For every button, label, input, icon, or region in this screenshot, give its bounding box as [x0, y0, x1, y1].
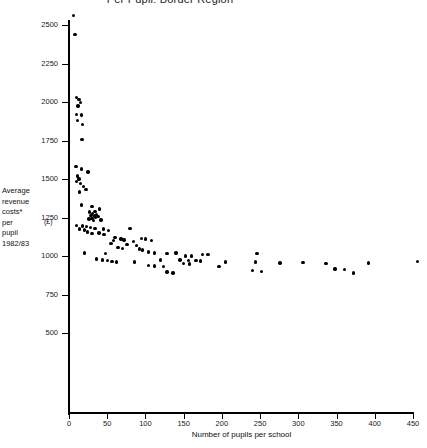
data-point	[93, 227, 96, 230]
y-axis-tick	[62, 333, 69, 334]
data-point	[98, 207, 101, 210]
data-point	[102, 233, 105, 236]
data-point	[95, 257, 98, 260]
y-axis-title-line-4: per	[2, 218, 44, 229]
y-axis-title-line-3: costs*	[2, 207, 44, 218]
y-axis-tick	[62, 102, 69, 103]
y-axis-tick-label: 1750	[8, 136, 58, 145]
data-point	[97, 231, 100, 234]
x-axis-tick-label: 450	[398, 419, 427, 428]
x-axis-tick-label: 200	[207, 419, 237, 428]
y-axis-tick	[62, 25, 69, 26]
data-point	[301, 261, 304, 264]
x-axis-tick-label: 250	[245, 419, 275, 428]
y-axis-tick-label: 1500	[8, 174, 58, 183]
data-point	[144, 237, 147, 240]
data-point	[80, 167, 83, 170]
y-axis-title-line-5: pupil	[2, 228, 44, 239]
data-point	[367, 261, 370, 264]
data-point	[333, 267, 336, 270]
data-point	[141, 248, 144, 251]
data-point	[135, 244, 138, 247]
data-point	[73, 33, 76, 36]
data-point	[194, 259, 197, 262]
data-point	[74, 165, 77, 168]
y-axis-tick	[62, 218, 69, 219]
y-axis-title-line-6: 1982/83	[2, 239, 44, 250]
y-axis-tick-label: 2000	[8, 97, 58, 106]
y-axis-tick	[62, 64, 69, 65]
data-point	[278, 261, 281, 264]
scatter-plot-figure: Per Pupil: Border Region 500750100012501…	[0, 0, 427, 448]
x-axis-title: Number of pupils per school	[69, 430, 414, 439]
data-point	[165, 252, 168, 255]
x-axis-tick-label: 300	[283, 419, 313, 428]
y-axis-tick	[62, 295, 69, 296]
data-point	[324, 262, 327, 265]
y-axis-tick-label: 750	[8, 290, 58, 299]
y-axis-tick	[62, 141, 69, 142]
x-axis-tick-label: 150	[169, 419, 199, 428]
x-axis-tick-label: 50	[92, 419, 122, 428]
data-point	[80, 203, 83, 206]
data-point	[83, 251, 86, 254]
x-axis-tick-label: 0	[54, 419, 84, 428]
data-point	[110, 260, 113, 263]
x-axis-tick-label: 400	[360, 419, 390, 428]
data-point	[87, 217, 90, 220]
data-point	[86, 170, 89, 173]
y-axis-tick-label: 1000	[8, 251, 58, 260]
data-point	[76, 104, 79, 107]
data-point	[99, 218, 102, 221]
y-axis-unit-label: (£)	[44, 218, 53, 225]
y-axis-tick-label: 2250	[8, 59, 58, 68]
data-point	[122, 238, 125, 241]
data-point	[352, 271, 355, 274]
data-point	[102, 227, 105, 230]
data-point	[115, 260, 118, 263]
plot-data-area	[69, 22, 414, 413]
data-point	[125, 243, 128, 246]
y-axis-tick	[62, 256, 69, 257]
data-point	[80, 113, 83, 116]
data-point	[86, 230, 89, 233]
x-axis-tick-label: 100	[130, 419, 160, 428]
x-axis-tick-label: 350	[322, 419, 352, 428]
data-point	[153, 251, 156, 254]
data-point	[254, 260, 257, 263]
data-point	[174, 251, 177, 254]
y-axis-title-line-2: revenue	[2, 197, 44, 208]
data-point	[184, 254, 187, 257]
data-point	[90, 232, 93, 235]
data-point	[101, 258, 104, 261]
y-axis-tick	[62, 179, 69, 180]
data-point	[153, 264, 156, 267]
data-point	[165, 270, 168, 273]
y-axis-tick-label: 500	[8, 328, 58, 337]
y-axis-tick-label: 2500	[8, 20, 58, 29]
y-axis-title-line-1: Average	[2, 186, 44, 197]
data-point	[171, 271, 174, 274]
data-point	[199, 259, 202, 262]
data-point	[116, 246, 119, 249]
data-point	[132, 240, 135, 243]
data-point	[128, 227, 131, 230]
data-point	[178, 258, 181, 261]
y-axis-title: Average revenue costs* per pupil 1982/83	[2, 186, 44, 249]
data-point	[190, 254, 193, 257]
data-point	[147, 250, 150, 253]
